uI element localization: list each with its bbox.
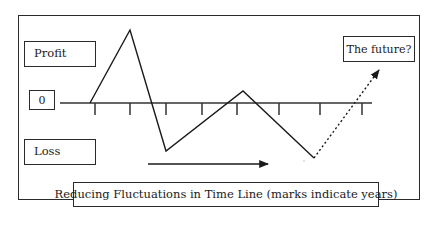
- diagram-caption: Reducing Fluctuations in Time Line (mark…: [73, 182, 379, 207]
- future-projection-arrow: [314, 70, 379, 158]
- profit-text: Profit: [34, 48, 66, 60]
- zero-text: 0: [39, 95, 46, 106]
- loss-label: Loss: [24, 139, 96, 165]
- future-label: The future?: [343, 36, 415, 62]
- caption-text: Reducing Fluctuations in Time Line (mark…: [55, 189, 398, 201]
- loss-text: Loss: [34, 146, 60, 158]
- future-text: The future?: [347, 44, 412, 55]
- profit-label: Profit: [24, 41, 96, 67]
- zero-label: 0: [29, 90, 55, 110]
- speck-mark: [303, 160, 305, 162]
- year-tick-marks: [95, 103, 362, 115]
- profit-loss-line: [90, 30, 314, 158]
